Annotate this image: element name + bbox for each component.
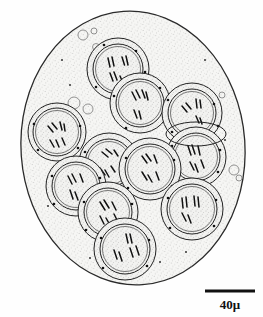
nucleus-outer-ring [28,103,86,161]
scale-bar: 40μ [205,291,255,312]
cell-illustration: 40μ [0,0,263,317]
vacuole [27,224,39,236]
vacuole [184,19,192,27]
nucleus [161,178,223,240]
figure-container: 40μ [0,0,263,317]
nucleus [28,103,86,161]
nucleus-outer-ring [110,73,170,133]
vacuole [52,258,58,264]
scale-bar-label: 40μ [220,297,241,312]
nucleus-outer-ring [94,218,156,280]
vacuole [73,278,83,288]
nucleus-outer-ring [161,178,223,240]
vacuole [68,271,74,277]
nucleus [94,218,156,280]
vacuole [157,286,164,293]
nucleus [110,73,170,133]
vacuole [188,266,200,278]
vacuole [82,286,90,294]
